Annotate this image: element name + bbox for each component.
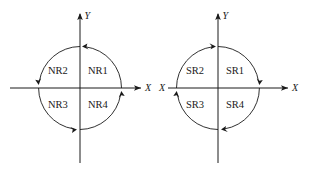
quadrant-label-nr1: NR1 — [88, 65, 108, 76]
left-x-axis-label: X — [144, 82, 152, 93]
right-x-axis-label-left: X — [158, 82, 166, 93]
left-arc-nr3-arrowhead — [70, 127, 77, 133]
quadrant-label-nr2: NR2 — [48, 65, 68, 76]
left-arc-nr4 — [80, 91, 125, 130]
quadrant-rotation-figure: Y X NR1 NR2 — [0, 0, 311, 175]
right-arc-sr1-path — [218, 47, 259, 82]
left-arc-nr3 — [39, 88, 77, 133]
right-arc-sr4 — [221, 88, 259, 132]
left-arc-nr2-arrowhead — [35, 78, 41, 85]
right-diagram-sr: Y X X SR1 — [158, 10, 299, 163]
quadrant-label-sr2: SR2 — [186, 65, 204, 76]
right-arc-sr2-arrowhead — [209, 43, 216, 49]
quadrant-label-nr3: NR3 — [48, 99, 68, 110]
right-y-axis-label: Y — [223, 10, 230, 21]
quadrant-label-sr4: SR4 — [226, 99, 245, 110]
left-arc-nr2-path — [39, 47, 80, 82]
right-arc-sr3 — [173, 91, 218, 130]
left-diagram-nr: Y X NR1 NR2 — [10, 10, 152, 163]
left-arc-nr4-arrowhead — [119, 91, 125, 98]
left-y-axis-label: Y — [85, 10, 92, 21]
right-x-axis-label: X — [291, 82, 299, 93]
right-arc-sr1-arrowhead — [257, 78, 263, 85]
diagram-canvas: Y X NR1 NR2 — [0, 0, 311, 175]
right-arc-sr4-arrowhead — [221, 126, 228, 132]
right-arc-sr3-arrowhead — [173, 91, 179, 98]
left-arc-nr1-arrowhead — [82, 44, 89, 50]
quadrant-label-sr1: SR1 — [226, 65, 244, 76]
quadrant-label-nr4: NR4 — [88, 99, 109, 110]
quadrant-label-sr3: SR3 — [186, 99, 204, 110]
right-x-axis — [168, 85, 288, 91]
